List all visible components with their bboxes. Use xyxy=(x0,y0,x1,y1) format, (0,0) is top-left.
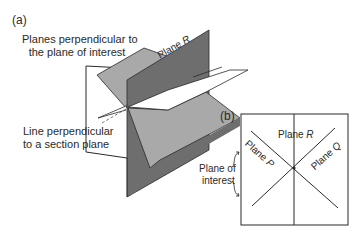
plane-of-interest-edge-bottom xyxy=(86,152,127,158)
annotation-line-1: Line perpendicular xyxy=(23,125,114,138)
plane-of-interest-label: Plane of interest xyxy=(199,163,236,187)
section-plane-left-flap xyxy=(98,106,126,118)
plane-of-interest-line-2: interest xyxy=(199,175,236,187)
annotation-line-2: to a section plane xyxy=(23,138,114,151)
annotation-line-2: the plane of interest xyxy=(22,46,132,59)
annotation-line-1: Planes perpendicular to xyxy=(22,33,132,46)
panel-b-plane-r-label: Plane R xyxy=(278,128,314,141)
panel-b-intersection-point xyxy=(292,166,295,169)
annotation-planes-perpendicular: Planes perpendicular to the plane of int… xyxy=(22,33,132,59)
plane-of-interest-line-1: Plane of xyxy=(199,163,236,175)
annotation-line-perpendicular: Line perpendicular to a section plane xyxy=(23,125,114,151)
panel-a-label: (a) xyxy=(12,14,27,27)
panel-b-label: (b) xyxy=(220,110,235,123)
